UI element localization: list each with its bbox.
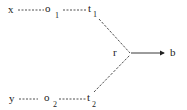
node-t2-subscript: 2	[92, 100, 96, 109]
node-b: b	[170, 46, 176, 58]
node-o1: o	[45, 2, 51, 14]
node-o2-subscript: 2	[53, 100, 57, 109]
node-t1: t	[88, 2, 91, 14]
node-t2: t	[87, 91, 90, 103]
node-o2: o	[44, 91, 50, 103]
node-t1-subscript: 1	[93, 10, 97, 19]
diagram-canvas: x o 1 t 1 y o 2 t 2 r b	[0, 0, 187, 110]
edge-t2-r	[94, 55, 130, 92]
node-r: r	[113, 46, 117, 58]
node-y: y	[9, 92, 15, 104]
node-o1-subscript: 1	[55, 11, 59, 20]
node-x: x	[8, 3, 14, 15]
